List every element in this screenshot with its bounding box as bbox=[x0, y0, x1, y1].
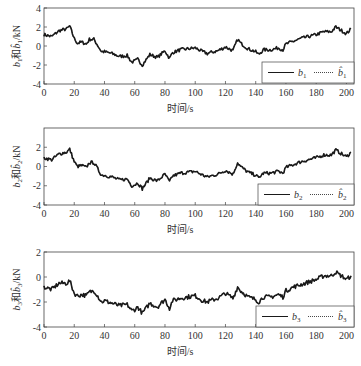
x-tick-label: 120 bbox=[218, 208, 233, 219]
y-tick-label: 2 bbox=[36, 247, 41, 258]
x-tick-label: 200 bbox=[339, 208, 354, 219]
x-tick-label: 40 bbox=[99, 87, 109, 98]
x-axis-label: 时间/s bbox=[167, 223, 194, 235]
x-tick-label: 100 bbox=[188, 330, 203, 341]
y-tick-label: -2 bbox=[33, 297, 41, 308]
y-tick-label: 2 bbox=[36, 142, 41, 153]
x-tick-label: 60 bbox=[130, 208, 140, 219]
x-tick-label: 140 bbox=[248, 330, 263, 341]
y-tick-label: 0 bbox=[36, 161, 41, 172]
subplot-1: 020406080100120140160180200-4-2024b1b̂1时… bbox=[10, 3, 354, 115]
x-tick-label: 180 bbox=[309, 87, 324, 98]
x-tick-label: 180 bbox=[309, 330, 324, 341]
x-tick-label: 160 bbox=[278, 87, 293, 98]
x-tick-label: 100 bbox=[188, 87, 203, 98]
chart-canvas: 020406080100120140160180200-4-2024b1b̂1时… bbox=[0, 0, 361, 366]
subplot-2: 020406080100120140160180200-4-202b2b̂2时间… bbox=[10, 128, 354, 235]
series-line-estimate bbox=[44, 26, 351, 67]
x-tick-label: 100 bbox=[188, 208, 203, 219]
x-axis-label: 时间/s bbox=[167, 345, 194, 357]
y-tick-label: -2 bbox=[33, 60, 41, 71]
y-tick-label: 4 bbox=[36, 3, 41, 14]
x-axis-label: 时间/s bbox=[167, 102, 194, 114]
subplot-3: 020406080100120140160180200-4-202b3b̂3时间… bbox=[10, 247, 354, 358]
x-tick-label: 60 bbox=[130, 330, 140, 341]
y-axis-label: b1和b̂1/kN bbox=[10, 25, 24, 67]
x-tick-label: 20 bbox=[69, 330, 79, 341]
legend: b3b̂3 bbox=[256, 306, 354, 327]
series-line-actual bbox=[44, 26, 351, 67]
y-tick-label: 2 bbox=[36, 22, 41, 33]
x-tick-label: 200 bbox=[339, 330, 354, 341]
y-tick-label: 0 bbox=[36, 41, 41, 52]
y-tick-label: -4 bbox=[33, 79, 41, 90]
x-tick-label: 140 bbox=[248, 208, 263, 219]
x-tick-label: 80 bbox=[160, 330, 170, 341]
x-tick-label: 20 bbox=[69, 87, 79, 98]
x-tick-label: 200 bbox=[339, 87, 354, 98]
y-tick-label: -4 bbox=[33, 322, 41, 333]
legend: b1b̂1 bbox=[262, 62, 354, 83]
x-tick-label: 0 bbox=[42, 208, 47, 219]
x-tick-label: 120 bbox=[218, 87, 233, 98]
y-tick-label: -2 bbox=[33, 180, 41, 191]
x-tick-label: 0 bbox=[42, 330, 47, 341]
x-tick-label: 40 bbox=[99, 330, 109, 341]
x-tick-label: 140 bbox=[248, 87, 263, 98]
x-tick-label: 80 bbox=[160, 208, 170, 219]
y-tick-label: -4 bbox=[33, 200, 41, 211]
y-axis-label: b2和b̂2/kN bbox=[10, 146, 24, 188]
y-axis-label: b3和b̂3/kN bbox=[10, 269, 24, 311]
x-tick-label: 120 bbox=[218, 330, 233, 341]
x-tick-label: 80 bbox=[160, 87, 170, 98]
x-tick-label: 0 bbox=[42, 87, 47, 98]
x-tick-label: 40 bbox=[99, 208, 109, 219]
x-tick-label: 60 bbox=[130, 87, 140, 98]
legend: b2b̂2 bbox=[258, 184, 354, 205]
y-tick-label: 0 bbox=[36, 272, 41, 283]
x-tick-label: 160 bbox=[278, 330, 293, 341]
x-tick-label: 20 bbox=[69, 208, 79, 219]
x-tick-label: 160 bbox=[278, 208, 293, 219]
x-tick-label: 180 bbox=[309, 208, 324, 219]
